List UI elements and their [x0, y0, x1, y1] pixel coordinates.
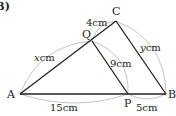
- geometry-diagram: 3) A B C Q P 4cm xcm 9cm ycm 15cm 5cm: [0, 0, 176, 116]
- measure-qp: 9cm: [110, 58, 132, 69]
- arc-pb: [128, 94, 166, 99]
- measure-cb: ycm: [139, 42, 161, 53]
- label-c: C: [112, 5, 120, 18]
- label-p: P: [124, 97, 132, 110]
- measure-qc: 4cm: [86, 17, 108, 28]
- label-a: A: [6, 88, 16, 101]
- label-q: Q: [82, 28, 91, 41]
- label-b: B: [168, 88, 176, 101]
- measure-pb: 5cm: [136, 102, 158, 113]
- measure-aq: xcm: [34, 52, 55, 63]
- problem-number: 3): [0, 0, 10, 13]
- measure-ap: 15cm: [50, 102, 78, 113]
